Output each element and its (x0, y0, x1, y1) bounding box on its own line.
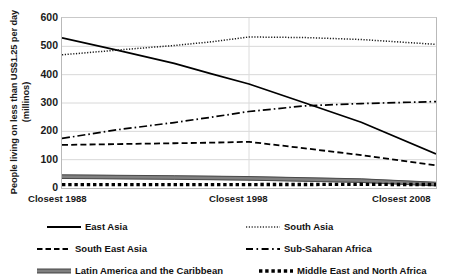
dashed-line-icon (36, 243, 72, 255)
x-axis-tick-label: Closest 2008 (372, 193, 431, 204)
legend-item[interactable]: Middle East and North Africa (258, 260, 427, 279)
legend-item[interactable]: South Asia (245, 216, 333, 237)
fine-dotted-line-icon (245, 221, 281, 233)
thick-gray-line-icon (36, 265, 72, 277)
series-canvas (62, 18, 436, 188)
legend-item-label: Middle East and North Africa (297, 266, 427, 276)
legend-item-label: South East Asia (75, 244, 147, 254)
y-axis-tick-label: 200 (28, 125, 58, 136)
legend-item[interactable]: East Asia (46, 216, 127, 237)
y-axis-tick-label: 500 (28, 40, 58, 51)
legend-item-label: Latin America and the Caribbean (75, 266, 223, 276)
legend-item-label: Sub-Saharan Africa (284, 244, 372, 254)
plot-area (61, 17, 437, 189)
legend-item-label: East Asia (85, 222, 127, 232)
y-axis-tick-labels: 6005004003002001000 (28, 0, 58, 200)
dash-dot-line-icon (245, 243, 281, 255)
solid-line-icon (46, 221, 82, 233)
chart-legend: East AsiaSouth AsiaSouth East AsiaSub-Sa… (0, 212, 452, 279)
legend-item[interactable]: Sub-Saharan Africa (245, 238, 372, 259)
line-chart: People living on less than US$1.25 per d… (0, 0, 452, 279)
legend-item[interactable]: South East Asia (36, 238, 147, 259)
y-axis-tick-label: 600 (28, 12, 58, 23)
legend-item-label: South Asia (284, 222, 333, 232)
y-axis-tick-label: 0 (28, 182, 58, 193)
y-axis-tick-label: 100 (28, 154, 58, 165)
y-axis-tick-label: 400 (28, 69, 58, 80)
thick-dotted-line-icon (258, 265, 294, 277)
x-axis-tick-label: Closest 1988 (28, 193, 87, 204)
y-axis-tick-label: 300 (28, 97, 58, 108)
y-axis-title-line1: People living on less than US$1.25 per d… (9, 7, 19, 197)
legend-item[interactable]: Latin America and the Caribbean (36, 260, 223, 279)
x-axis-tick-label: Closest 1998 (209, 193, 268, 204)
